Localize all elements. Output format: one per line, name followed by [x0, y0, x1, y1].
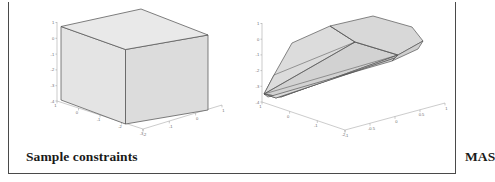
- z-tick-label: 0: [257, 37, 260, 42]
- cube-shape: [61, 9, 208, 124]
- z-tick-label: -1: [51, 52, 55, 57]
- panel-sample-constraints: 1 0 -1 -2 -3 -4 1 0 -1 -2 -3: [10, 0, 240, 182]
- y-tick-group: [345, 103, 445, 132]
- x-tick-label: 1: [259, 104, 262, 109]
- y-tick-label: -2: [143, 132, 147, 137]
- x-tick-label: 0: [287, 114, 290, 119]
- z-tick-label: 0: [52, 36, 55, 41]
- z-tick-label: -2: [256, 68, 260, 73]
- z-tick-group: [260, 24, 262, 103]
- z-tick-label: -2: [51, 67, 55, 72]
- frame-left-rule: [8, 2, 9, 174]
- y-tick-label: -1: [345, 133, 349, 138]
- z-tick-labels: 1 0 -1 -2 -3 -4: [51, 20, 55, 104]
- y-tick-label: 1: [222, 108, 225, 113]
- z-tick-label: -1: [256, 52, 260, 57]
- z-tick-labels: 1 0 -1 -2 -3 -4: [256, 21, 260, 105]
- cone-shape: [264, 16, 423, 98]
- z-tick-label: 1: [52, 20, 55, 25]
- x-tick-label: -2: [118, 124, 122, 129]
- z-tick-label: -3: [51, 83, 55, 88]
- cube-face-right: [126, 35, 209, 124]
- caption-mas: MAS: [465, 149, 495, 165]
- caption-sample-constraints: Sample constraints: [26, 149, 138, 165]
- z-tick-label: -3: [256, 84, 260, 89]
- y-tick-label: 0.5: [419, 112, 425, 117]
- x-tick-label: 1: [54, 103, 57, 108]
- x-tick-label: 0: [76, 110, 79, 115]
- y-tick-label: -1: [169, 124, 173, 129]
- x-tick-label: -1: [314, 123, 318, 128]
- y-tick-label: -0.5: [368, 126, 376, 131]
- x-axis-line: [262, 102, 345, 130]
- x-tick-group: [262, 102, 345, 132]
- y-tick-label: 0: [196, 116, 199, 121]
- panel-mas: 1 0 -1 -2 -3 -4 1 0 -1 -2: [232, 0, 462, 182]
- plot-mas: 1 0 -1 -2 -3 -4 1 0 -1 -2: [232, 2, 462, 142]
- y-tick-label: 1: [445, 106, 448, 111]
- x-tick-label: -1: [97, 117, 101, 122]
- z-tick-label: 1: [257, 21, 260, 26]
- y-tick-labels: -1 -0.5 0 0.5 1: [345, 106, 449, 138]
- y-tick-label: 0: [395, 119, 398, 124]
- plot-sample-constraints: 1 0 -1 -2 -3 -4 1 0 -1 -2 -3: [10, 2, 240, 142]
- x-tick-labels: 1 0 -1 -2: [259, 104, 346, 137]
- z-tick-group: [55, 23, 57, 102]
